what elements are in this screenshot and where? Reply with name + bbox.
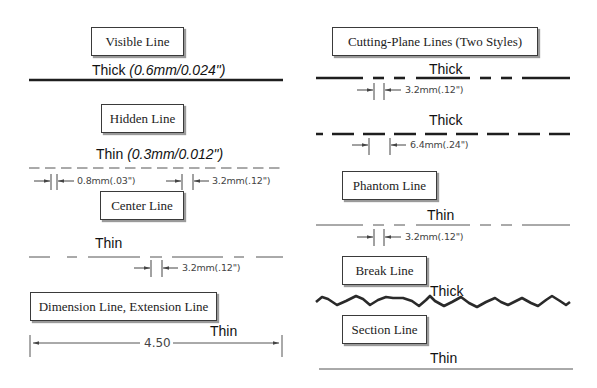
spec-text: (0.6mm/0.024") [129, 62, 225, 78]
hidden-line-weight: Thin (0.3mm/0.012") [96, 147, 223, 161]
center-line-weight: Thin [95, 236, 122, 250]
section-line-weight: Thin [430, 351, 457, 365]
center-gap-dimension [134, 260, 178, 277]
center-line-label: Center Line [100, 191, 184, 220]
hidden-dash-dim-text: 3.2mm(.12") [212, 176, 270, 186]
hidden-gap-dim-text: 0.8mm(.03") [77, 176, 135, 186]
visible-line-label: Visible Line [91, 27, 184, 56]
cutting-plane-1-weight: Thick [429, 62, 462, 76]
dimension-line-label: Dimension Line, Extension Line [30, 292, 217, 321]
dimension-value: 4.50 [142, 337, 173, 349]
line-types-diagram: Visible Line Thick (0.6mm/0.024") Hidden… [0, 0, 597, 388]
section-line-label: Section Line [342, 315, 427, 344]
hidden-line-label: Hidden Line [101, 104, 184, 133]
phantom-gap-dimension [357, 229, 401, 246]
phantom-line-weight: Thin [427, 208, 454, 222]
cutting-plane-1-dim-text: 3.2mm(.12") [405, 85, 463, 95]
weight-text: Thick [92, 62, 125, 78]
cutting-plane-1-dimension [357, 83, 401, 100]
cutting-plane-2-weight: Thick [429, 113, 462, 127]
cutting-plane-2-dimension [352, 138, 406, 155]
spec-text: (0.3mm/0.012") [127, 146, 223, 162]
cutting-plane-2-dim-text: 6.4mm(.24") [410, 140, 468, 150]
visible-line-weight: Thick (0.6mm/0.024") [92, 63, 225, 77]
phantom-line-label: Phantom Line [342, 171, 437, 200]
break-line-weight: Thick [430, 284, 463, 298]
center-gap-dim-text: 3.2mm(.12") [182, 263, 240, 273]
phantom-gap-dim-text: 3.2mm(.12") [405, 232, 463, 242]
break-line-label: Break Line [342, 256, 427, 285]
cutting-plane-lines-label: Cutting-Plane Lines (Two Styles) [332, 27, 538, 56]
dimension-line-weight: Thin [210, 324, 237, 338]
weight-text: Thin [96, 146, 123, 162]
line-artwork [0, 0, 597, 388]
